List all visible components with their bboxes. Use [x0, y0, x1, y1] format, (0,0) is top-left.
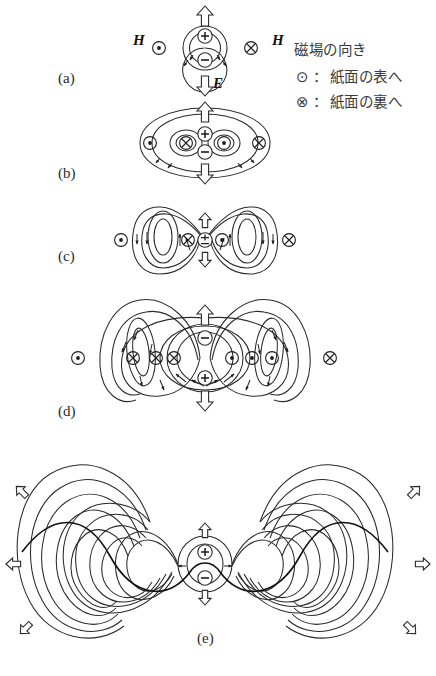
panel-b-drawing	[140, 102, 270, 184]
legend-row-back: ⊗：紙面の裏へ	[294, 90, 436, 115]
panel-label-e: (e)	[197, 630, 214, 647]
legend-separator-front: ：	[313, 65, 328, 90]
cross-in-circle-icon: ⊗	[294, 90, 311, 115]
legend-title: 磁場の向き	[294, 38, 436, 63]
legend: 磁場の向き ⊙：紙面の表へ ⊗：紙面の裏へ	[294, 38, 436, 115]
legend-text-front: 紙面の表へ	[330, 65, 403, 90]
figure-root: .ln{fill:none;stroke:#2a2a2a;stroke-widt…	[0, 0, 436, 676]
panel-a-drawing	[153, 6, 258, 96]
field-label-h-right: H	[272, 32, 284, 49]
legend-separator-back: ：	[313, 90, 328, 115]
panel-d-drawing	[72, 300, 337, 411]
dot-in-circle-icon: ⊙	[294, 65, 311, 90]
legend-text-back: 紙面の裏へ	[330, 90, 403, 115]
field-label-e: E	[213, 75, 223, 92]
panel-label-c: (c)	[58, 248, 75, 265]
caption-cropped	[0, 668, 436, 676]
field-label-h-left: H	[133, 32, 145, 49]
panel-label-b: (b)	[58, 165, 76, 182]
panel-label-a: (a)	[58, 70, 75, 87]
legend-row-front: ⊙：紙面の表へ	[294, 65, 436, 90]
panel-c-drawing	[115, 207, 296, 274]
panel-label-d: (d)	[58, 403, 76, 420]
panel-e-drawing	[6, 465, 430, 638]
